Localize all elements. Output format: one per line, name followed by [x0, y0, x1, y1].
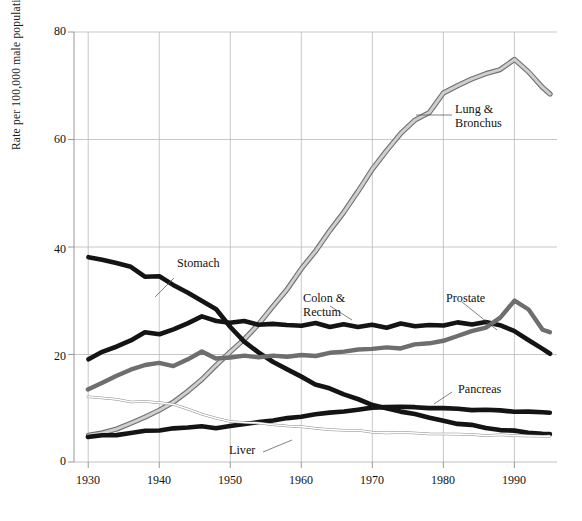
- x-tick-1950: 1950: [207, 473, 253, 488]
- series-label-lung-line2: Bronchus: [455, 117, 502, 131]
- y-axis-title: Rate per 100,000 male population: [10, 0, 22, 150]
- x-tick-1940: 1940: [136, 473, 182, 488]
- series-label-prostate: Prostate: [446, 292, 485, 306]
- x-tick-1960: 1960: [278, 473, 324, 488]
- x-tick-1970: 1970: [349, 473, 395, 488]
- series-label-liver: Liver: [229, 444, 255, 458]
- x-tick-1930: 1930: [65, 473, 111, 488]
- series-label-lung: Lung & Bronchus: [455, 103, 502, 130]
- annotation-leader-lines: [155, 115, 497, 452]
- series-label-colon-line1: Colon &: [303, 292, 345, 306]
- series-line-colon-rectum: [89, 316, 551, 359]
- y-tick-80: 80: [40, 24, 66, 39]
- y-tick-60: 60: [40, 132, 66, 147]
- series-label-colon: Colon & Rectum: [303, 292, 345, 319]
- x-tick-1990: 1990: [491, 473, 537, 488]
- y-tick-40: 40: [40, 242, 66, 257]
- x-tick-1980: 1980: [420, 473, 466, 488]
- series-label-colon-line2: Rectum: [303, 306, 345, 320]
- y-tick-20: 20: [40, 349, 66, 364]
- line-chart-plot: [0, 0, 582, 521]
- series-label-stomach: Stomach: [177, 257, 220, 271]
- y-tick-0: 0: [40, 454, 66, 469]
- chart-figure: Rate per 100,000 male population 80 60 4…: [0, 0, 582, 521]
- series-label-lung-line1: Lung &: [455, 103, 502, 117]
- series-line-stomach: [88, 257, 549, 434]
- series-label-pancreas: Pancreas: [458, 383, 501, 397]
